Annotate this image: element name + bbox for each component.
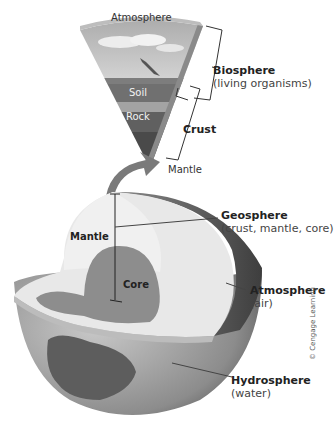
atmosphere-subtitle: (air) (250, 297, 273, 310)
geosphere-title: Geosphere (221, 209, 288, 222)
geosphere-subtitle: (crust, mantle, core) (221, 222, 334, 235)
biosphere-subtitle: (living organisms) (213, 77, 312, 90)
crust-title: Crust (183, 123, 216, 136)
biosphere-title: Biosphere (213, 64, 275, 77)
hydrosphere-subtitle: (water) (231, 387, 271, 400)
wedge-atmosphere-label: Atmosphere (111, 12, 172, 23)
copyright-credit: © Cengage Learning (309, 287, 317, 360)
globe-mantle-label: Mantle (70, 230, 109, 243)
globe-core-label: Core (123, 278, 149, 291)
wedge-soil-label: Soil (129, 87, 147, 98)
wedge-mantle-label: Mantle (168, 163, 202, 176)
hydrosphere-title: Hydrosphere (231, 374, 311, 387)
wedge-rock-label: Rock (126, 111, 150, 122)
